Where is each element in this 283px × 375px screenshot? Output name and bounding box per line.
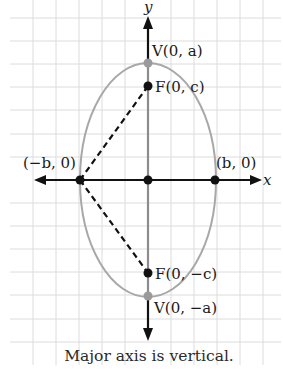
ellipse-diagram: y x V(0, a) F(0, c) (−b, 0) (b, 0) F(0, … (0, 0, 283, 375)
x-axis-right-arrow-icon (250, 175, 262, 185)
bottom-vertex-point (144, 292, 153, 301)
x-axis-left-arrow-icon (34, 175, 46, 185)
left-vertex-label: (−b, 0) (23, 154, 76, 172)
top-focus-point (144, 82, 153, 91)
left-vertex-point (76, 176, 85, 185)
bottom-vertex-label: V(0, −a) (153, 299, 217, 317)
diagram-canvas: y x V(0, a) F(0, c) (−b, 0) (b, 0) F(0, … (0, 0, 283, 375)
right-vertex-label: (b, 0) (216, 154, 256, 172)
top-vertex-label: V(0, a) (151, 42, 203, 60)
right-vertex-point (211, 176, 220, 185)
x-axis-label: x (263, 171, 272, 189)
top-focus-label: F(0, c) (155, 78, 205, 96)
bottom-focus-label: F(0, −c) (155, 265, 217, 283)
center-point (144, 176, 153, 185)
y-axis-down-arrow-icon (143, 328, 153, 341)
y-axis-label: y (143, 0, 153, 16)
bottom-focus-point (144, 269, 153, 278)
caption: Major axis is vertical. (64, 347, 234, 365)
